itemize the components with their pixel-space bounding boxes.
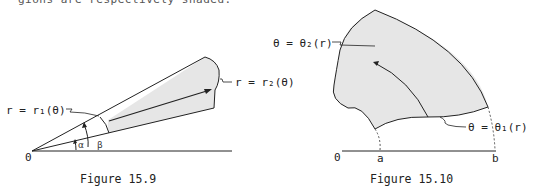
tick-label-b: b <box>492 152 499 165</box>
label-r1: r = r₁(θ) <box>6 104 66 117</box>
caption-15-9: Figure 15.9 <box>80 172 156 186</box>
shaded-region-polar <box>108 57 220 133</box>
pointer-r2 <box>220 79 232 82</box>
figures-canvas: r = r₁(θ) r = r₂(θ) α β 0 Figure 15.9 θ … <box>0 0 537 192</box>
pointer-theta1 <box>440 117 466 127</box>
label-theta2: θ = θ₂(r) <box>273 37 333 50</box>
inner-curve-r1 <box>100 117 109 133</box>
dashed-projection-a <box>375 129 380 150</box>
origin-label-15-10: 0 <box>334 151 341 164</box>
pointer-r1 <box>66 109 99 116</box>
figure-15-9: r = r₁(θ) r = r₂(θ) α β 0 Figure 15.9 <box>6 57 295 186</box>
label-theta1: θ = θ₁(r) <box>468 121 528 134</box>
label-r2: r = r₂(θ) <box>235 76 295 89</box>
tick-label-a: a <box>377 152 384 165</box>
caption-15-10: Figure 15.10 <box>370 172 453 186</box>
shaded-region-r-theta <box>333 10 488 129</box>
figure-15-10: θ = θ₂(r) θ = θ₁(r) 0 a b Figure 15.10 <box>273 10 528 186</box>
label-alpha: α <box>78 140 84 150</box>
label-beta: β <box>97 140 103 150</box>
origin-label-15-9: 0 <box>25 151 32 164</box>
